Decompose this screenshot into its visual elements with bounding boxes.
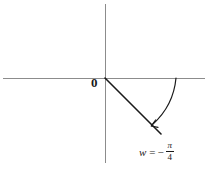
terminal-ray-line bbox=[105, 78, 161, 134]
fraction-numerator: π bbox=[167, 141, 174, 151]
angle-variable: w bbox=[139, 147, 146, 158]
angle-equation-label: w = − π 4 bbox=[139, 142, 174, 163]
origin-label: 0 bbox=[91, 76, 98, 89]
equals-sign: = bbox=[149, 147, 155, 158]
angle-diagram-figure: 0 w = − π 4 bbox=[0, 0, 210, 176]
minus-sign: − bbox=[158, 147, 164, 158]
angle-arc-path bbox=[153, 78, 176, 124]
fraction-denominator: 4 bbox=[167, 152, 174, 162]
coordinate-plane-svg bbox=[0, 0, 210, 176]
arc-arrowhead-icon bbox=[151, 120, 158, 127]
pi-over-four-fraction: π 4 bbox=[166, 141, 174, 162]
